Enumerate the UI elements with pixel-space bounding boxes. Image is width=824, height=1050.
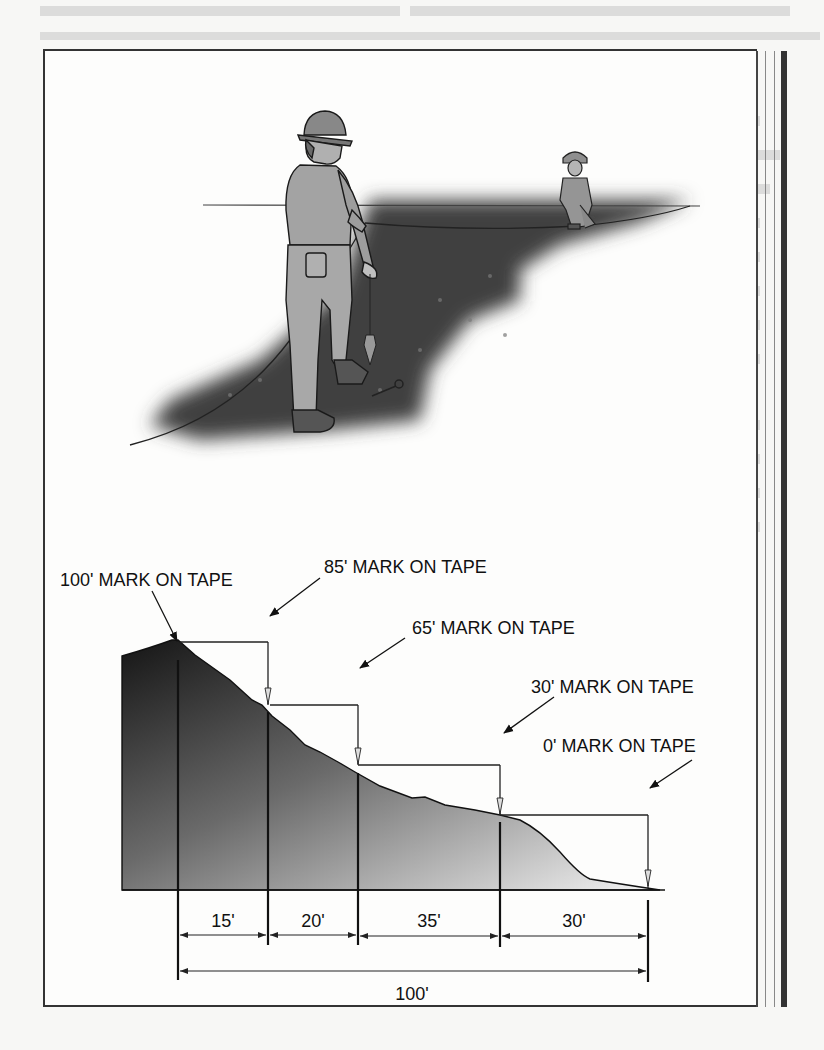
- survey-figure: 100' MARK ON TAPE 85' MARK ON TAPE 65' M…: [0, 0, 824, 1050]
- field-illustration: [130, 111, 700, 445]
- callout-65-mark: 65' MARK ON TAPE: [412, 618, 575, 638]
- profile-diagram: 100' MARK ON TAPE 85' MARK ON TAPE 65' M…: [60, 557, 696, 1004]
- callout-0-mark: 0' MARK ON TAPE: [543, 736, 696, 756]
- callout-85-mark: 85' MARK ON TAPE: [324, 557, 487, 577]
- callout-30-mark: 30' MARK ON TAPE: [531, 677, 694, 697]
- segment-label-3: 35': [417, 911, 440, 931]
- callout-100-mark: 100' MARK ON TAPE: [60, 570, 233, 590]
- segment-label-4: 30': [562, 911, 585, 931]
- segment-label-1: 15': [211, 911, 234, 931]
- ground-shadow: [150, 200, 690, 440]
- total-length-label: 100': [395, 984, 428, 1004]
- segment-label-2: 20': [301, 911, 324, 931]
- dimension-lines: [180, 935, 646, 971]
